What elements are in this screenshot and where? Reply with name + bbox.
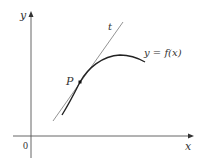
x-axis-arrow-icon [188, 134, 194, 139]
curve-label: y = f(x) [143, 47, 182, 58]
x-axis-label: x [185, 140, 192, 153]
tangent-label: t [108, 21, 113, 32]
y-axis-label: y [19, 9, 27, 22]
point-label: P [65, 75, 74, 88]
point-p [79, 81, 82, 84]
tangent-diagram: y x 0 t P y = f(x) [0, 0, 198, 166]
curve [62, 55, 145, 115]
origin-label: 0 [23, 140, 28, 151]
y-axis-arrow-icon [29, 11, 34, 17]
